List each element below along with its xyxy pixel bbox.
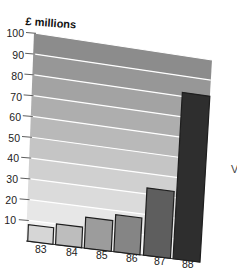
x-tick-86: 86 — [126, 252, 138, 264]
y-tick-100: 100 — [2, 27, 24, 39]
chart-plot-area — [0, 0, 237, 274]
bar-chart: £ millions 100 90 80 70 60 50 40 30 20 1… — [0, 0, 237, 274]
y-tick-70: 70 — [0, 91, 22, 103]
y-tick-60: 60 — [0, 111, 21, 123]
y-tick-80: 80 — [1, 70, 23, 82]
x-tick-85: 85 — [96, 249, 108, 261]
x-tick-88: 88 — [182, 258, 194, 270]
x-tick-87: 87 — [154, 255, 166, 267]
bar-85 — [84, 217, 112, 251]
bar-83 — [28, 225, 54, 245]
bar-87 — [143, 188, 174, 259]
y-tick-10: 10 — [0, 214, 16, 226]
bar-86 — [114, 215, 142, 255]
y-tick-90: 90 — [2, 49, 24, 61]
y-tick-20: 20 — [0, 194, 17, 206]
bar-84 — [56, 224, 83, 248]
y-tick-40: 40 — [0, 152, 19, 164]
x-tick-84: 84 — [66, 246, 78, 258]
x-tick-83: 83 — [35, 243, 47, 255]
y-tick-30: 30 — [0, 173, 18, 185]
edge-glyph: V — [231, 163, 237, 175]
y-tick-50: 50 — [0, 132, 20, 144]
